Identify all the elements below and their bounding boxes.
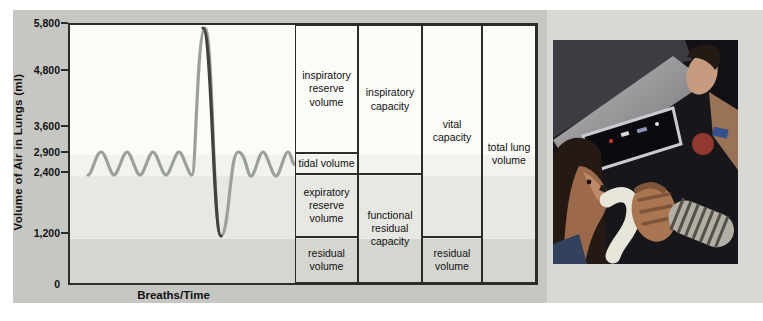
box-total-lung-volume: total lung volume — [482, 25, 536, 283]
y-tickmark — [61, 69, 68, 71]
y-tick-0: 0 — [14, 278, 60, 290]
y-tickmark — [61, 125, 68, 127]
box-residual-volume-left: residual volume — [295, 237, 358, 283]
box-vital-capacity: vital capacity — [422, 25, 482, 237]
y-tick-3600: 3,600 — [14, 120, 60, 132]
box-label: vital capacity — [424, 118, 480, 144]
x-axis-title: Breaths/Time — [60, 289, 287, 301]
spirometry-photo — [553, 40, 738, 264]
box-label: residual volume — [297, 247, 356, 273]
y-tickmark — [61, 171, 68, 173]
y-tick-4800: 4,800 — [14, 64, 60, 76]
y-tick-2900: 2,900 — [14, 146, 60, 158]
box-tidal-volume: tidal volume — [295, 153, 358, 174]
box-functional-residual-capacity: functional residual capacity — [358, 174, 422, 283]
forced-expiration-stroke — [203, 28, 221, 236]
y-tickmark — [61, 232, 68, 234]
y-tick-5800: 5,800 — [14, 17, 60, 29]
box-label: inspiratory reserve volume — [297, 69, 356, 108]
box-label: inspiratory capacity — [360, 86, 420, 112]
y-tickmark — [61, 151, 68, 153]
box-label: total lung volume — [484, 141, 534, 167]
box-residual-volume-right: residual volume — [422, 237, 482, 283]
box-label: tidal volume — [298, 158, 354, 169]
y-tick-1200: 1,200 — [14, 227, 60, 239]
box-expiratory-reserve-volume: expiratory reserve volume — [295, 174, 358, 237]
box-inspiratory-capacity: inspiratory capacity — [358, 25, 422, 174]
y-tick-2400: 2,400 — [14, 166, 60, 178]
y-tickmark — [61, 22, 68, 24]
box-label: functional residual capacity — [360, 209, 420, 248]
photo-red-equipment — [692, 133, 714, 155]
box-inspiratory-reserve-volume: inspiratory reserve volume — [295, 25, 358, 153]
lung-volumes-figure: Volume of Air in Lungs (ml) 5,800 4,800 … — [0, 0, 763, 321]
chart-area: inspiratory reserve volume tidal volume … — [68, 23, 538, 285]
box-label: expiratory reserve volume — [297, 186, 356, 225]
box-label: residual volume — [424, 247, 480, 273]
